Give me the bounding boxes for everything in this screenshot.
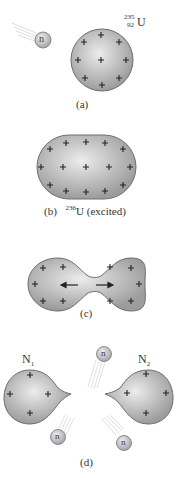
neutron-trail	[12, 23, 37, 42]
fragment-symbol: N	[22, 352, 31, 366]
isotope-u235: 235 92 U	[124, 12, 154, 32]
element-symbol: U	[137, 15, 146, 30]
neutron-label-top: n	[101, 348, 106, 358]
neutron-label-bottom-right: n	[121, 437, 126, 447]
fragment-n2-label: N2	[138, 352, 150, 368]
mass-number: 235	[124, 14, 135, 21]
mass-number: 236	[66, 204, 77, 212]
panel-b-label: (b)	[44, 205, 57, 217]
fission-diagram	[0, 0, 179, 478]
fragment-n1	[4, 370, 71, 424]
atomic-number: 92	[127, 22, 134, 29]
dumbbell-nucleus	[28, 258, 145, 311]
fragment-subscript: 2	[147, 360, 151, 368]
panel-a-label: (a)	[76, 98, 88, 110]
fragment-subscript: 1	[31, 360, 35, 368]
element-symbol: U	[76, 205, 84, 217]
fragment-symbol: N	[138, 352, 147, 366]
fragment-n1-label: N1	[22, 352, 34, 368]
neutron-label: n	[39, 33, 44, 44]
neutron-label-bottom-left: n	[55, 431, 60, 441]
panel-d-label: (d)	[80, 456, 93, 468]
panel-b-caption: (b) 236U (excited)	[44, 204, 126, 217]
fragment-n2	[105, 370, 173, 424]
panel-c	[28, 258, 145, 311]
panel-c-label: (c)	[80, 307, 92, 319]
panel-b	[37, 135, 136, 199]
excited-state: (excited)	[87, 205, 126, 217]
panel-a	[12, 23, 133, 91]
